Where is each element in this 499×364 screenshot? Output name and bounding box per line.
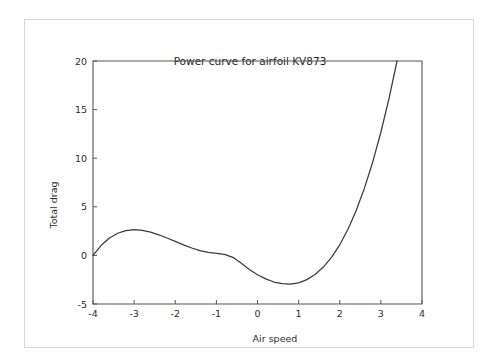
y-tick-label: 15 [75,104,87,115]
x-tick-label: 4 [419,308,425,319]
x-tick-label: 0 [254,308,260,319]
y-tick-label: 20 [75,56,87,67]
y-axis-label: Total drag [48,182,59,230]
x-tick-label: -3 [129,308,138,319]
x-tick-label: 2 [337,308,343,319]
y-tick-label: 5 [81,201,87,212]
data-series-total-drag [93,61,422,284]
plot-area: Power curve for airfoil KV873 -4-3-2-101… [25,20,475,349]
screenshot-root: Power curve for airfoil KV873 -4-3-2-101… [0,0,499,364]
y-tick-label: 10 [75,153,87,164]
x-tick-label: 3 [378,308,384,319]
x-tick-label: -4 [88,308,97,319]
figure-card: Power curve for airfoil KV873 -4-3-2-101… [24,19,474,348]
y-tick-label: -5 [78,299,87,310]
x-tick-label: -1 [212,308,221,319]
axes-frame [93,61,422,304]
x-tick-label: 1 [296,308,302,319]
y-tick-label: 0 [81,250,87,261]
x-axis-ticks: -4-3-2-101234 [88,300,425,319]
power-curve-chart: Power curve for airfoil KV873 -4-3-2-101… [25,20,475,349]
x-axis-label: Air speed [253,333,298,344]
x-tick-label: -2 [171,308,180,319]
y-axis-ticks: -505101520 [75,56,97,310]
